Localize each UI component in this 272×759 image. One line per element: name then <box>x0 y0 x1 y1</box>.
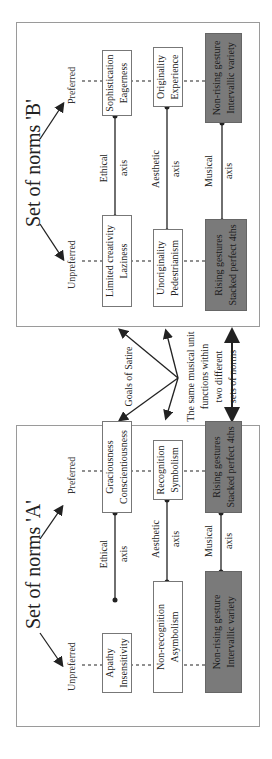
panel-b-musical-axis-label: Musical <box>201 145 217 197</box>
panel-a-title: Set of norms 'A' <box>22 500 45 629</box>
panel-b-ethical-axis-label: Ethical <box>96 143 112 193</box>
panel-b-ethical-preferred-box: Sophistication Eagerness <box>102 50 132 116</box>
panel-a-musical-axis-label: Musical <box>201 515 217 567</box>
panel-a-aesthetic-axis-sub: axis <box>168 509 184 569</box>
panel-b-aesthetic-axis-sub: axis <box>168 139 184 199</box>
panel-a-musical-unpreferred-box: Non-rising gesture Intervallic variety <box>205 571 242 693</box>
panel-b-title: Set of norms 'B' <box>22 99 45 227</box>
panel-a-unpreferred-label: Unpreferred <box>66 642 77 691</box>
panel-a-ethical-preferred-box: Graciousness Conscientiousness <box>102 421 132 513</box>
panel-a-ethical-axis-label: Ethical <box>96 529 112 579</box>
panel-b-musical-preferred-box: Non-rising gesture Intervallic variety <box>205 33 242 123</box>
panel-b-musical-axis-sub: axis <box>221 145 237 197</box>
diagram-stage: Set of norms 'A' Unpreferred Preferred A… <box>0 0 272 759</box>
panel-b-aesthetic-axis-label: Aesthetic <box>148 139 164 199</box>
panel-b-ethical-axis-sub: axis <box>116 143 132 193</box>
panel-b-preferred-label: Preferred <box>66 67 77 104</box>
panel-a-ethical-axis-sub: axis <box>116 529 132 579</box>
panel-b-aesthetic-preferred-box: Originality Experience <box>153 47 183 107</box>
panel-a-preferred-label: Preferred <box>66 457 77 494</box>
panel-a-aesthetic-unpreferred-box: Non-recognition Asymbolism <box>153 581 183 693</box>
panel-a-aesthetic-preferred-box: Recognition Symbolism <box>153 440 183 500</box>
panel-a-aesthetic-axis-label: Aesthetic <box>148 509 164 569</box>
panel-b-unpreferred-label: Unpreferred <box>66 240 77 289</box>
panel-a-musical-preferred-box: Rising gestures Stacked perfect 4ths <box>205 421 242 513</box>
goals-of-satire-label: Goals of Satire <box>122 339 136 414</box>
panel-b-ethical-unpreferred-box: Limited creativity Laziness <box>102 215 132 307</box>
panel-b-musical-unpreferred-box: Rising gestures Stacked perfect 4ths <box>205 219 247 311</box>
panel-b-aesthetic-unpreferred-box: Unoriginality Pedestrianism <box>153 229 183 307</box>
middle-caption: The same musical unit functions within t… <box>184 329 240 424</box>
panel-a-ethical-unpreferred-box: Apathy Insensitivity <box>102 633 132 693</box>
panel-a-musical-axis-sub: axis <box>221 515 237 567</box>
